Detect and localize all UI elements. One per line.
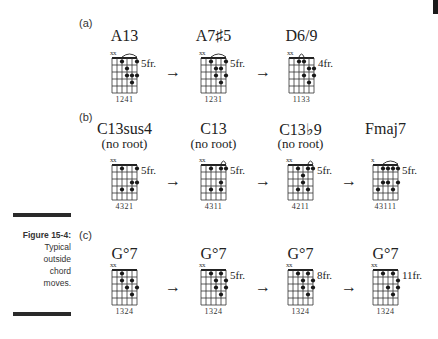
finger-dot bbox=[214, 278, 218, 282]
chord-grid bbox=[197, 52, 234, 97]
finger-dot bbox=[130, 180, 134, 184]
caption-line: outside bbox=[0, 253, 71, 265]
finger-dot bbox=[301, 285, 305, 289]
finger-dot bbox=[120, 166, 124, 170]
finger-dot bbox=[209, 187, 213, 191]
arrow-icon: → bbox=[255, 172, 271, 190]
fret-position-label: 5fr. bbox=[141, 57, 156, 69]
fret-position-label: 5fr. bbox=[230, 57, 245, 69]
finger-dot bbox=[381, 180, 385, 184]
chord-name: Fmaj7 bbox=[346, 120, 426, 138]
barre-arc bbox=[221, 161, 226, 164]
finger-dot bbox=[296, 166, 300, 170]
chord-grid bbox=[369, 264, 406, 309]
caption-top-rule bbox=[13, 213, 71, 217]
fingering-numbers: 1324 bbox=[194, 307, 234, 316]
caption-line: Typical bbox=[0, 241, 71, 253]
chord-grid bbox=[197, 159, 234, 204]
finger-dot bbox=[391, 187, 395, 191]
chord-grid bbox=[284, 159, 321, 204]
finger-dot bbox=[306, 166, 310, 170]
fingering-numbers: 1231 bbox=[194, 95, 234, 104]
chord-name: A13 bbox=[85, 27, 165, 45]
finger-dot bbox=[381, 271, 385, 275]
finger-dot bbox=[376, 187, 380, 191]
finger-dot bbox=[302, 59, 306, 63]
finger-dot bbox=[301, 180, 305, 184]
barre-arc bbox=[299, 54, 304, 57]
finger-dot bbox=[386, 166, 390, 170]
fingering-numbers: 4211 bbox=[281, 202, 321, 211]
finger-dot bbox=[396, 285, 400, 289]
fingering-numbers: 1324 bbox=[366, 307, 406, 316]
chord-name: G°7 bbox=[174, 245, 254, 263]
finger-dot bbox=[306, 187, 310, 191]
finger-dot bbox=[224, 285, 228, 289]
chord-grid bbox=[197, 264, 234, 309]
finger-dot bbox=[386, 180, 390, 184]
finger-dot bbox=[391, 292, 395, 296]
figure-number: Figure 15-4: bbox=[0, 229, 71, 241]
finger-dot bbox=[381, 166, 385, 170]
chord-grid bbox=[285, 52, 322, 97]
finger-dot bbox=[125, 285, 129, 289]
chord-name: A7♯5 bbox=[174, 27, 254, 45]
finger-dot bbox=[301, 278, 305, 282]
chord-grid bbox=[108, 159, 145, 204]
fingering-numbers: 4321 bbox=[105, 202, 145, 211]
finger-dot bbox=[135, 59, 139, 63]
finger-dot bbox=[219, 180, 223, 184]
arrow-icon: → bbox=[165, 172, 181, 190]
finger-dot bbox=[311, 278, 315, 282]
chord-subtitle: (no root) bbox=[261, 136, 341, 152]
fret-position-label: 5fr. bbox=[141, 164, 156, 176]
fingering-numbers: 1241 bbox=[105, 95, 145, 104]
arrow-icon: → bbox=[341, 172, 357, 190]
finger-dot bbox=[224, 73, 228, 77]
fret-position-label: 5fr. bbox=[230, 164, 245, 176]
finger-dot bbox=[135, 285, 139, 289]
finger-dot bbox=[219, 80, 223, 84]
finger-dot bbox=[386, 285, 390, 289]
finger-dot bbox=[130, 80, 134, 84]
arrow-icon: → bbox=[341, 278, 357, 296]
finger-dot bbox=[307, 80, 311, 84]
finger-dot bbox=[130, 187, 134, 191]
chord-name: G°7 bbox=[85, 245, 165, 263]
finger-dot bbox=[214, 73, 218, 77]
finger-dot bbox=[130, 292, 134, 296]
finger-dot bbox=[120, 59, 124, 63]
finger-dot bbox=[209, 166, 213, 170]
barre-arc bbox=[122, 54, 137, 57]
figure-caption: Figure 15-4: Typical outside chord moves… bbox=[0, 229, 71, 289]
finger-dot bbox=[219, 271, 223, 275]
chord-grid bbox=[108, 52, 145, 97]
chord-grid bbox=[369, 159, 406, 204]
finger-dot bbox=[391, 271, 395, 275]
fingering-numbers: 1324 bbox=[281, 307, 321, 316]
chord-name: G°7 bbox=[346, 245, 426, 263]
finger-dot bbox=[297, 59, 301, 63]
fingering-numbers: 1324 bbox=[105, 307, 145, 316]
finger-dot bbox=[120, 278, 124, 282]
finger-dot bbox=[391, 166, 395, 170]
finger-dot bbox=[125, 66, 129, 70]
finger-dot bbox=[312, 73, 316, 77]
finger-dot bbox=[301, 173, 305, 177]
finger-dot bbox=[306, 271, 310, 275]
finger-dot bbox=[135, 73, 139, 77]
finger-dot bbox=[135, 180, 139, 184]
finger-dot bbox=[219, 66, 223, 70]
arrow-icon: → bbox=[255, 278, 271, 296]
caption-line: moves. bbox=[0, 277, 71, 289]
finger-dot bbox=[219, 166, 223, 170]
finger-dot bbox=[311, 285, 315, 289]
finger-dot bbox=[296, 271, 300, 275]
section-label-c: (c) bbox=[79, 229, 92, 241]
finger-dot bbox=[120, 187, 124, 191]
fret-position-label: 5fr. bbox=[230, 269, 245, 281]
chord-grid bbox=[108, 264, 145, 309]
chord-name: D6/9 bbox=[262, 27, 342, 45]
finger-dot bbox=[396, 166, 400, 170]
finger-dot bbox=[396, 180, 400, 184]
